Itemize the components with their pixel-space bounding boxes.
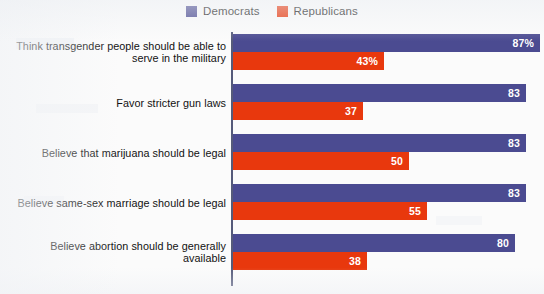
bar-value-democrats: 83 — [508, 188, 526, 199]
category-label: Think transgender people should be able … — [8, 40, 226, 65]
bar-group: Think transgender people should be able … — [0, 34, 544, 71]
category-label: Believe abortion should be generally ava… — [8, 240, 226, 265]
bar-value-democrats: 87% — [512, 38, 540, 49]
bar-value-republicans: 37 — [345, 106, 363, 117]
bar-republicans: 37 — [232, 102, 363, 120]
bar-republicans: 55 — [232, 202, 427, 220]
bar-democrats: 87% — [232, 34, 540, 52]
bar-democrats: 83 — [232, 84, 526, 102]
value-axis-line — [231, 32, 233, 286]
legend-label-republicans: Republicans — [294, 6, 358, 18]
bar-republicans: 38 — [232, 252, 367, 270]
bar-democrats: 80 — [232, 234, 515, 252]
bar-value-republicans: 50 — [391, 156, 409, 167]
bar-value-democrats: 80 — [497, 238, 515, 249]
category-label: Believe same-sex marriage should be lega… — [8, 196, 226, 209]
bar-republicans: 43% — [232, 52, 384, 70]
legend-item-democrats: Democrats — [186, 6, 260, 18]
bar-group: Believe that marijuana should be legal 8… — [0, 134, 544, 171]
chart-plot-area: Think transgender people should be able … — [0, 26, 544, 294]
bar-democrats: 83 — [232, 134, 526, 152]
bar-value-democrats: 83 — [508, 138, 526, 149]
category-label: Favor stricter gun laws — [8, 96, 226, 109]
bar-group: Favor stricter gun laws 83 37 — [0, 84, 544, 121]
bar-value-democrats: 83 — [508, 88, 526, 99]
legend-swatch-democrats — [186, 6, 197, 17]
chart-legend: Democrats Republicans — [0, 3, 544, 20]
bar-value-republicans: 38 — [349, 256, 367, 267]
bar-democrats: 83 — [232, 184, 526, 202]
legend-label-democrats: Democrats — [203, 6, 260, 18]
bar-group: Believe abortion should be generally ava… — [0, 234, 544, 271]
category-label: Believe that marijuana should be legal — [8, 146, 226, 159]
bar-republicans: 50 — [232, 152, 409, 170]
bar-value-republicans: 55 — [409, 206, 427, 217]
legend-swatch-republicans — [277, 6, 288, 17]
bar-value-republicans: 43% — [356, 56, 384, 67]
bar-group: Believe same-sex marriage should be lega… — [0, 184, 544, 221]
legend-item-republicans: Republicans — [277, 6, 358, 18]
